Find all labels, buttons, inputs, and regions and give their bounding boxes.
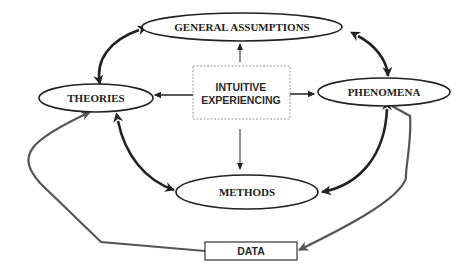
intuitive-label-line1: INTUITIVE bbox=[216, 81, 267, 93]
edge-data-to-theories bbox=[28, 112, 205, 251]
node-phenomena: PHENOMENA bbox=[318, 78, 450, 106]
theories-label: THEORIES bbox=[67, 92, 124, 104]
data-label: DATA bbox=[237, 245, 265, 257]
edge-assumptions-phenomena bbox=[358, 36, 388, 76]
edge-theories-methods bbox=[118, 121, 174, 190]
edge-phenomena-methods bbox=[322, 109, 387, 192]
general-assumptions-label: GENERAL ASSUMPTIONS bbox=[174, 21, 309, 33]
node-methods: METHODS bbox=[176, 175, 318, 209]
edge-assumptions-theories bbox=[99, 30, 139, 84]
node-intuitive-experiencing: INTUITIVE EXPERIENCING bbox=[193, 66, 290, 119]
node-general-assumptions: GENERAL ASSUMPTIONS bbox=[142, 13, 342, 41]
intuitive-label-line2: EXPERIENCING bbox=[201, 94, 280, 106]
diagram-canvas: GENERAL ASSUMPTIONS THEORIES PHENOMENA M… bbox=[0, 0, 472, 274]
node-theories: THEORIES bbox=[39, 84, 153, 112]
node-data: DATA bbox=[205, 242, 297, 260]
methods-label: METHODS bbox=[219, 186, 275, 198]
phenomena-label: PHENOMENA bbox=[348, 86, 421, 98]
